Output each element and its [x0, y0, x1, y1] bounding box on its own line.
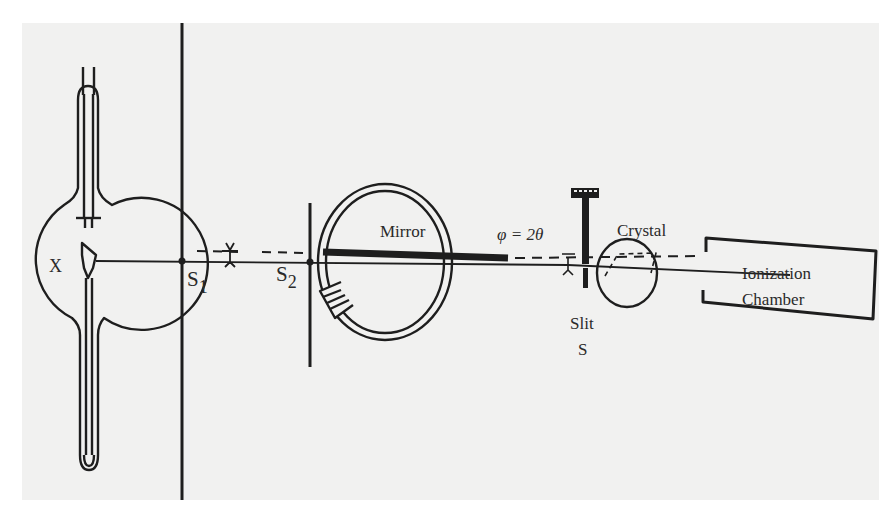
- slit1-label: S1: [187, 267, 208, 297]
- spectrometer-diagram: X S1 S2 Mirror φ = 2θ Crystal Slit S Ion…: [0, 0, 895, 532]
- mirror-label: Mirror: [380, 222, 426, 241]
- xray-beam: [96, 261, 568, 265]
- adjustable-slit: [571, 188, 599, 288]
- crystal-label: Crystal: [617, 221, 666, 240]
- tube-label: X: [49, 256, 62, 276]
- angle-label: φ = 2θ: [497, 225, 543, 244]
- slit2-label: S2: [276, 262, 297, 292]
- mirror: [323, 252, 508, 258]
- slit-name-label: Slit: [570, 314, 594, 333]
- detector-label-line2: Chamber: [742, 290, 805, 309]
- mirror-ring: [318, 184, 452, 340]
- crystal: [597, 239, 657, 307]
- detector-label-line1: Ionization: [742, 264, 811, 283]
- slit-letter-label: S: [578, 340, 587, 359]
